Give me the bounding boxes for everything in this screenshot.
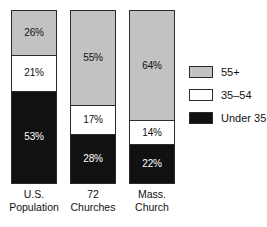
segment-value-label: 14% bbox=[142, 128, 161, 138]
legend-swatch-35-54-icon bbox=[189, 89, 213, 101]
legend-item-35-54: 35–54 bbox=[189, 85, 267, 104]
category-label-line-2: Church bbox=[109, 201, 195, 214]
category-label-mass-church: Mass. Church bbox=[109, 188, 195, 214]
segment-value-label: 21% bbox=[24, 68, 43, 78]
segment-value-label: 26% bbox=[24, 28, 43, 38]
segment-value-label: 53% bbox=[24, 132, 43, 142]
bar-segment-72-churches-35-54: 17% bbox=[71, 106, 115, 135]
stacked-bar-us-population: 26% 21% 53% bbox=[11, 10, 57, 184]
bar-segment-mass-church-under-35: 22% bbox=[130, 145, 174, 183]
legend-label-35-54: 35–54 bbox=[221, 89, 252, 101]
legend-swatch-under-35-icon bbox=[189, 112, 213, 124]
legend-label-under-35: Under 35 bbox=[221, 112, 266, 124]
category-label-line-1: Mass. bbox=[109, 188, 195, 201]
stacked-bar-mass-church: 64% 14% 22% bbox=[129, 10, 175, 184]
legend-swatch-55-plus-icon bbox=[189, 66, 213, 78]
bar-segment-us-population-under-35: 53% bbox=[12, 92, 56, 183]
segment-value-label: 55% bbox=[83, 53, 102, 63]
legend-item-55-plus: 55+ bbox=[189, 62, 267, 81]
bar-segment-mass-church-35-54: 14% bbox=[130, 121, 174, 145]
bar-segment-us-population-35-54: 21% bbox=[12, 56, 56, 92]
bar-segment-72-churches-under-35: 28% bbox=[71, 135, 115, 183]
legend-item-under-35: Under 35 bbox=[189, 108, 267, 127]
bar-segment-us-population-55-plus: 26% bbox=[12, 11, 56, 56]
bar-segment-mass-church-55-plus: 64% bbox=[130, 11, 174, 121]
segment-value-label: 17% bbox=[83, 115, 102, 125]
segment-value-label: 22% bbox=[142, 159, 161, 169]
stacked-bar-chart: 26% 21% 53% U.S. Population 55% 17% 28% bbox=[0, 0, 267, 227]
chart-legend: 55+ 35–54 Under 35 bbox=[189, 62, 267, 131]
legend-label-55-plus: 55+ bbox=[221, 66, 240, 78]
segment-value-label: 28% bbox=[83, 154, 102, 164]
bar-segment-72-churches-55-plus: 55% bbox=[71, 11, 115, 106]
stacked-bar-72-churches: 55% 17% 28% bbox=[70, 10, 116, 184]
segment-value-label: 64% bbox=[142, 61, 161, 71]
